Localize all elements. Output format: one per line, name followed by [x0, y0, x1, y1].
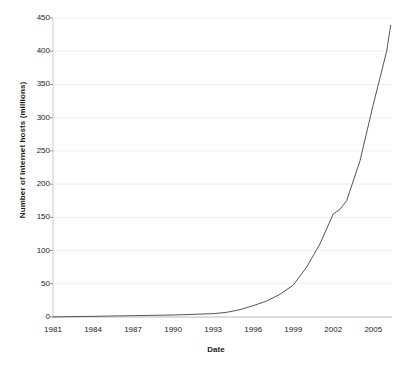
- axis-lines: [50, 18, 392, 317]
- data-line-internet-hosts: [53, 25, 391, 317]
- data-series-layer: [53, 25, 391, 317]
- plot-area: [0, 0, 406, 368]
- gridlines: [53, 18, 392, 284]
- chart-figure: Number of Internet hosts (millions) Date…: [0, 0, 406, 368]
